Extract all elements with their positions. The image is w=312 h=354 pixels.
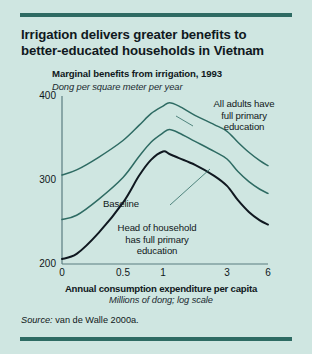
leader-line-head-of-household <box>170 169 210 205</box>
annotation-all-adults-line2: full primary <box>192 110 296 122</box>
x-tick-label-3: 3 <box>215 267 239 278</box>
source-text: van de Walle 2000a. <box>53 315 139 325</box>
x-tick-label-0: 0 <box>50 267 74 278</box>
figure-card: Irrigation delivers greater benefits to … <box>0 0 312 354</box>
annotation-head-of-household: Head of household has full primary educa… <box>101 222 213 257</box>
x-tick-label-1: 1 <box>151 267 175 278</box>
y-tick-label-300: 300 <box>22 174 56 185</box>
y-tick-label-400: 400 <box>22 90 56 101</box>
bottom-rule <box>20 337 292 341</box>
annotation-all-adults-line3: education <box>192 121 296 133</box>
x-axis-subtitle: Millions of dong; log scale <box>36 295 286 305</box>
source-note: Source: van de Walle 2000a. <box>21 315 291 325</box>
annotation-all-adults: All adults have full primary education <box>192 98 296 133</box>
x-axis-title: Annual consumption expenditure per capit… <box>36 283 286 294</box>
annotation-baseline: Baseline <box>103 198 173 210</box>
annotation-all-adults-line1: All adults have <box>192 98 296 110</box>
annotation-head-line3: education <box>101 245 213 257</box>
x-tick-label-0-5: 0.5 <box>111 267 135 278</box>
annotation-head-line2: has full primary <box>101 234 213 246</box>
source-label: Source: <box>21 315 53 325</box>
x-tick-label-6: 6 <box>256 267 280 278</box>
annotation-head-line1: Head of household <box>101 222 213 234</box>
leader-line-all-adults <box>176 116 193 126</box>
